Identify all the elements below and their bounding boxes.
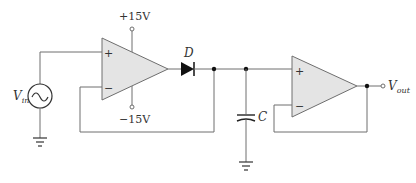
capacitor-label: C (258, 110, 267, 124)
opamp-2-minus: − (295, 100, 304, 113)
diode-label: D (183, 46, 194, 60)
opamp-1-minus: − (104, 82, 113, 95)
junction-dot (365, 84, 369, 88)
circuit-diagram: Vin + − +15V −15V D C + − (0, 0, 416, 183)
supply-pos-label: +15V (119, 10, 151, 23)
ground-icon-1 (33, 138, 47, 146)
supply-neg-label: −15V (119, 113, 151, 126)
schematic: Vin + − +15V −15V D C + − (0, 0, 416, 183)
ground-icon-2 (239, 162, 253, 170)
ac-voltage-source (28, 52, 102, 138)
supply-neg-terminal (130, 105, 134, 109)
opamp-1-plus: + (104, 47, 113, 60)
opamp-2: + − (292, 56, 357, 117)
vout-label: Vout (388, 79, 411, 95)
supply-pos-terminal (130, 27, 134, 31)
output-terminal (381, 84, 385, 88)
input-wire (40, 52, 102, 84)
opamp-2-plus: + (295, 65, 304, 78)
opamp-1: + − (102, 27, 168, 109)
vin-label: Vin (13, 89, 29, 105)
junction-dot (212, 67, 216, 71)
diode-icon (181, 62, 194, 76)
